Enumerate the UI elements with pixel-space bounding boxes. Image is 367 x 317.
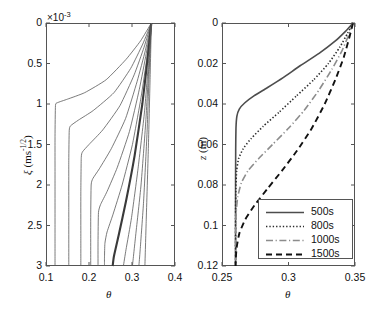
xtick-label: 0.25 [212, 271, 232, 283]
ytick-label: 2 [0, 178, 42, 190]
ytick-label: 0.02 [170, 57, 218, 69]
right-xaxis-label: θ [285, 288, 290, 300]
ytick-label: 2.5 [0, 219, 42, 231]
ytick-label: 0.06 [170, 138, 218, 150]
ytick-label: 0.04 [170, 97, 218, 109]
legend-label-1000s: 1000s [311, 233, 340, 245]
xtick-label: 0.3 [125, 271, 140, 283]
ytick-label: 0 [0, 16, 42, 28]
ytick-label: 0.5 [0, 57, 42, 69]
legend-label-500s: 500s [311, 205, 334, 217]
ytick-label: 1 [0, 97, 42, 109]
legend-line-sample-500s [266, 209, 304, 216]
xtick-label: 0.1 [39, 271, 54, 283]
left-xaxis-label: θ [106, 288, 111, 300]
legend: 500s800s1000s1500s [258, 199, 353, 259]
ytick-label: 0 [170, 16, 218, 28]
xtick-label: 0.4 [168, 271, 183, 283]
xtick-label: 0.2 [82, 271, 97, 283]
figure-container: ×10-3 00.511.522.53 0.10.20.30.4 θ ξ (ms… [0, 0, 367, 317]
legend-line-sample-800s [266, 223, 304, 230]
legend-line-sample-1500s [266, 251, 304, 258]
ytick-label: 0.08 [170, 178, 218, 190]
xtick-label: 0.35 [345, 271, 365, 283]
ytick-label: 3 [0, 259, 42, 271]
ytick-label: 0.12 [170, 259, 218, 271]
legend-line-sample-1000s [266, 237, 304, 244]
left-ticks-layer [40, 23, 181, 278]
left-axis-multiplier: ×10-3 [47, 10, 71, 23]
legend-label-800s: 800s [311, 219, 334, 231]
left-yaxis-label: ξ (ms-1/2) [19, 135, 33, 175]
xtick-label: 0.3 [281, 271, 296, 283]
legend-label-1500s: 1500s [311, 247, 340, 259]
ytick-label: 0.1 [170, 219, 218, 231]
right-yaxis-label: z (m) [196, 137, 208, 160]
